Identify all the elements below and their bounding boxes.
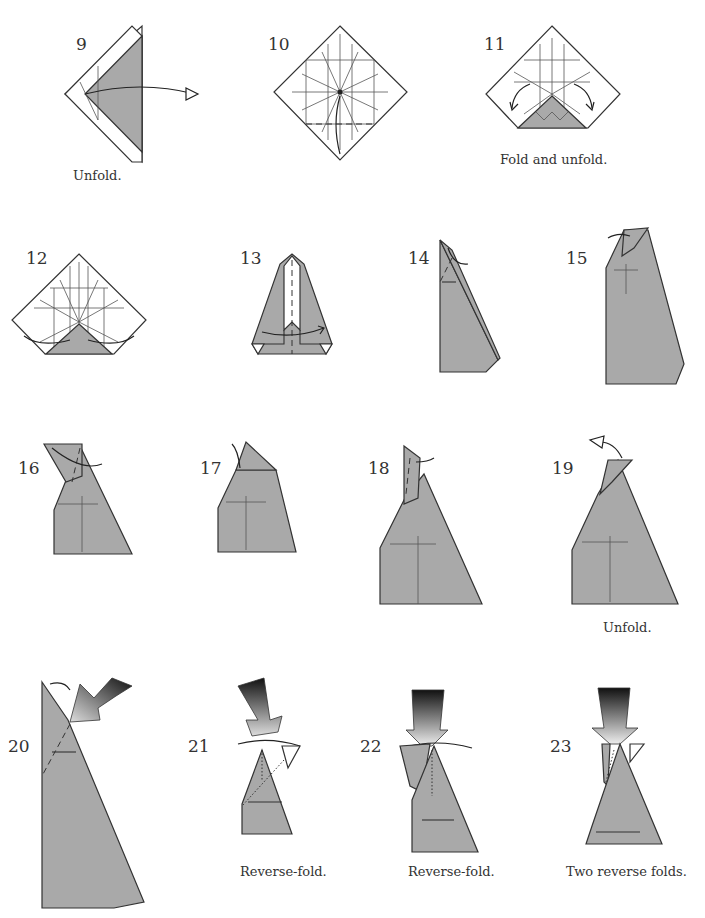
- step-caption: Unfold.: [603, 620, 652, 635]
- step-caption: Reverse-fold.: [240, 864, 327, 879]
- step-9-diagram: [60, 20, 220, 170]
- step-16-diagram: [42, 442, 142, 560]
- step-caption: Unfold.: [73, 168, 122, 183]
- step-caption: Two reverse folds.: [566, 864, 687, 879]
- step-17-diagram: [216, 440, 300, 556]
- step-18-diagram: [378, 444, 488, 606]
- step-21-diagram: [218, 676, 318, 838]
- step-23-diagram: [584, 686, 674, 848]
- step-number: 22: [360, 736, 382, 756]
- step-number: 23: [550, 736, 572, 756]
- step-number: 20: [8, 736, 30, 756]
- push-arrow-icon: [68, 676, 134, 738]
- step-number: 21: [188, 736, 210, 756]
- step-number: 16: [18, 458, 40, 478]
- step-11-diagram: [484, 24, 624, 134]
- step-10-diagram: [272, 24, 412, 164]
- step-number: 15: [566, 248, 588, 268]
- step-caption: Reverse-fold.: [408, 864, 495, 879]
- step-13-diagram: [250, 252, 340, 358]
- step-caption: Fold and unfold.: [500, 152, 607, 167]
- step-19-diagram: [570, 432, 680, 608]
- step-number: 14: [408, 248, 430, 268]
- step-12-diagram: [10, 252, 150, 360]
- step-14-diagram: [438, 236, 508, 376]
- step-22-diagram: [396, 688, 496, 852]
- step-15-diagram: [604, 226, 688, 386]
- arrow-head-icon: [186, 88, 198, 100]
